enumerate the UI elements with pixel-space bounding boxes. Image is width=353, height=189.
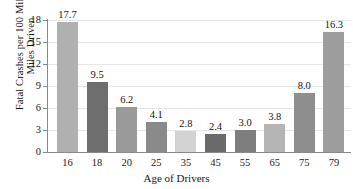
y-tick-label: 0	[8, 147, 41, 158]
y-tick-label: 15	[8, 37, 41, 48]
x-axis-title: Age of Drivers	[0, 172, 353, 184]
y-tick-label: 6	[8, 103, 41, 114]
bar-chart: Fatal Crashes per 100 Million Miles Driv…	[0, 0, 353, 189]
y-tick-label: 18	[8, 15, 41, 26]
bar-value-label: 8.0	[287, 81, 321, 92]
bar	[146, 122, 167, 152]
y-tick-label: 3	[8, 125, 41, 136]
x-axis-line	[47, 152, 351, 153]
y-tick-mark	[43, 152, 48, 153]
bar	[175, 131, 196, 152]
bar-value-label: 16.3	[317, 20, 351, 31]
bar-value-label: 3.8	[258, 112, 292, 123]
y-tick-label: 12	[8, 59, 41, 70]
bar	[57, 22, 78, 152]
bar	[264, 124, 285, 152]
y-tick-label: 9	[8, 81, 41, 92]
bar-value-label: 9.5	[80, 70, 114, 81]
bar	[294, 93, 315, 152]
bar-value-label: 17.7	[51, 10, 85, 21]
bar	[205, 134, 226, 152]
bar	[323, 32, 344, 152]
bar	[116, 107, 137, 152]
x-tick-label: 79	[317, 158, 351, 169]
cropped-title-remnant	[0, 0, 353, 7]
bar	[235, 130, 256, 152]
bar-value-label: 6.2	[110, 95, 144, 106]
bar	[87, 82, 108, 152]
